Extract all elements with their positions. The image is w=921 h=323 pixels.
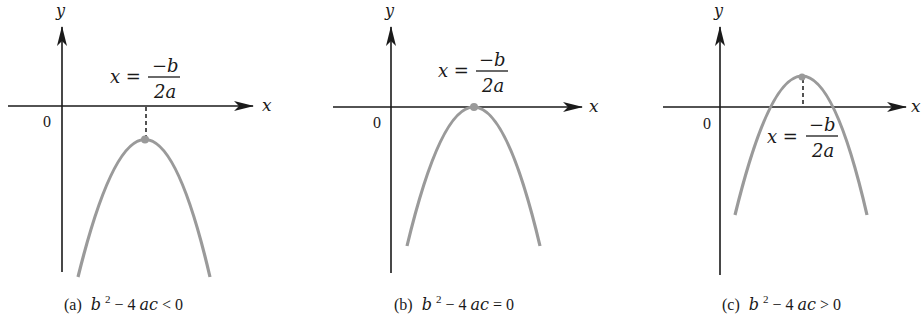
caption-a: (a) b 2 − 4 ac < 0 [64, 289, 183, 314]
panel-b: x y 0 x = −b 2a (b) b 2 − 4 ac = 0 [333, 1, 599, 314]
svg-text:x =: x = [438, 60, 469, 81]
parabola-curve [78, 140, 210, 278]
vertex-formula: x = −b 2a [110, 55, 180, 102]
svg-text:2a: 2a [481, 75, 504, 96]
parabola-curve [735, 76, 867, 215]
svg-text:2a: 2a [153, 81, 176, 102]
svg-text:−b: −b [152, 55, 179, 76]
y-axis-label: y [713, 1, 724, 20]
caption-c: (c) b 2 − 4 ac > 0 [722, 289, 841, 314]
vertex-point [141, 136, 149, 144]
y-axis-label: y [55, 1, 66, 20]
vertex-formula: x = −b 2a [767, 114, 838, 161]
parabola-discriminant-figure: x y 0 x = −b 2a (a) b 2 − 4 ac < 0 x y 0 [0, 0, 921, 323]
vertex-point [470, 103, 478, 111]
origin-label: 0 [373, 114, 381, 131]
y-axis-label: y [384, 1, 395, 20]
vertex-formula: x = −b 2a [438, 49, 508, 96]
caption-b: (b) b 2 − 4 ac = 0 [394, 289, 514, 314]
x-axis-label: x [911, 96, 921, 116]
parabola-curve [407, 107, 540, 246]
x-axis-label: x [589, 96, 599, 116]
origin-label: 0 [43, 113, 51, 130]
panel-a: x y 0 x = −b 2a (a) b 2 − 4 ac < 0 [8, 1, 272, 314]
svg-text:−b: −b [479, 49, 506, 70]
vertex-point [799, 74, 806, 81]
x-axis-label: x [262, 95, 272, 115]
svg-text:2a: 2a [811, 140, 834, 161]
svg-text:−b: −b [809, 114, 836, 135]
svg-text:x =: x = [110, 66, 141, 87]
panel-c: x y 0 x = −b 2a (c) b 2 − 4 ac > 0 [663, 1, 921, 314]
origin-label: 0 [703, 115, 711, 132]
svg-text:x =: x = [767, 126, 798, 147]
